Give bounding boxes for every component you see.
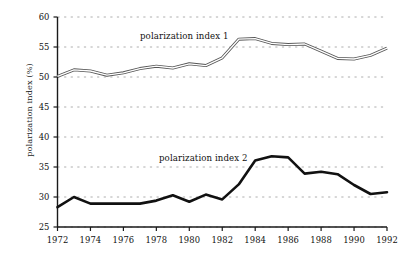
series-label-1: polarization index 1 [140,31,229,41]
axis-lines [58,17,388,227]
series-line-2 [58,156,388,207]
gridlines [58,17,388,227]
series-lines [58,39,388,208]
chart-container: polarization index (%) 2530354045505560 … [0,0,401,256]
series-label-2: polarization index 2 [159,153,248,163]
